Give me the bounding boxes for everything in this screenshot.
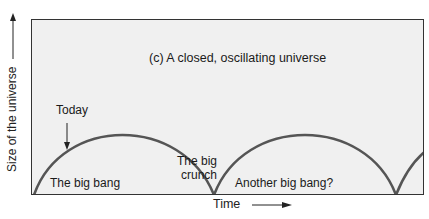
big-crunch-line1: The big [175, 154, 217, 168]
big-bang-label: The big bang [50, 176, 120, 190]
diagram-title: (c) A closed, oscillating universe [149, 51, 326, 65]
big-crunch-label: The big crunch [175, 154, 217, 182]
x-axis-label-text: Time [213, 197, 240, 211]
y-axis-arrow-icon [6, 13, 20, 59]
oscillation-curve [32, 20, 424, 195]
big-crunch-line2: crunch [181, 168, 217, 182]
today-label: Today [56, 103, 88, 117]
y-axis-label: Size of the universe [5, 13, 20, 172]
another-big-bang-label: Another big bang? [235, 176, 333, 190]
x-axis-label: Time [213, 197, 292, 212]
diagram-frame: (c) A closed, oscillating universe Today… [31, 19, 424, 195]
x-axis-arrow-icon [252, 198, 292, 212]
y-axis-label-text: Size of the universe [5, 67, 19, 172]
